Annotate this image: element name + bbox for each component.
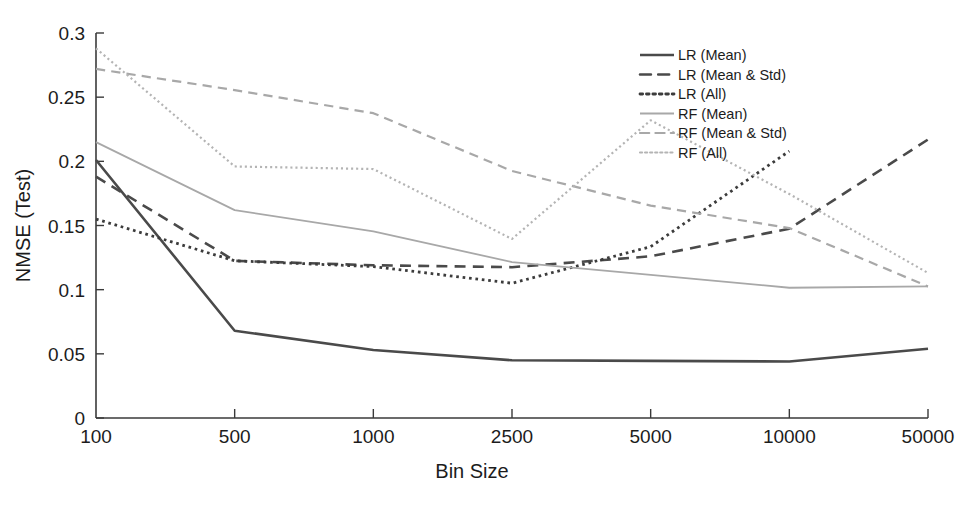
legend-label-6: RF (All) (678, 145, 727, 161)
legend-label-5: RF (Mean & Std) (678, 125, 787, 141)
legend-label-1: LR (Mean) (678, 47, 747, 63)
x-axis-title: Bin Size (435, 460, 508, 482)
y-tick-label: 0.1 (59, 280, 85, 301)
series-line-rf-mean (96, 142, 928, 288)
x-tick-label: 5000 (630, 426, 672, 447)
series-line-lr-all (96, 151, 789, 283)
x-tick-label: 10000 (763, 426, 816, 447)
y-tick-label: 0.15 (48, 216, 85, 237)
legend-label-3: LR (All) (678, 86, 726, 102)
x-tick-label: 50000 (902, 426, 955, 447)
chart-figure: 00.050.10.150.20.250.3100500100025005000… (0, 0, 958, 509)
y-axis-title: NMSE (Test) (12, 169, 34, 282)
y-tick-label: 0.05 (48, 344, 85, 365)
series-line-lr-mean (96, 160, 928, 361)
legend-label-2: LR (Mean & Std) (678, 67, 786, 83)
x-tick-label: 1000 (352, 426, 394, 447)
x-tick-label: 100 (80, 426, 112, 447)
legend-label-4: RF (Mean) (678, 106, 747, 122)
y-tick-label: 0.2 (59, 151, 85, 172)
y-tick-label: 0.25 (48, 87, 85, 108)
line-chart: 00.050.10.150.20.250.3100500100025005000… (0, 0, 958, 509)
x-tick-label: 2500 (491, 426, 533, 447)
x-tick-label: 500 (219, 426, 251, 447)
y-tick-label: 0.3 (59, 23, 85, 44)
series-line-rf-all (96, 48, 928, 273)
